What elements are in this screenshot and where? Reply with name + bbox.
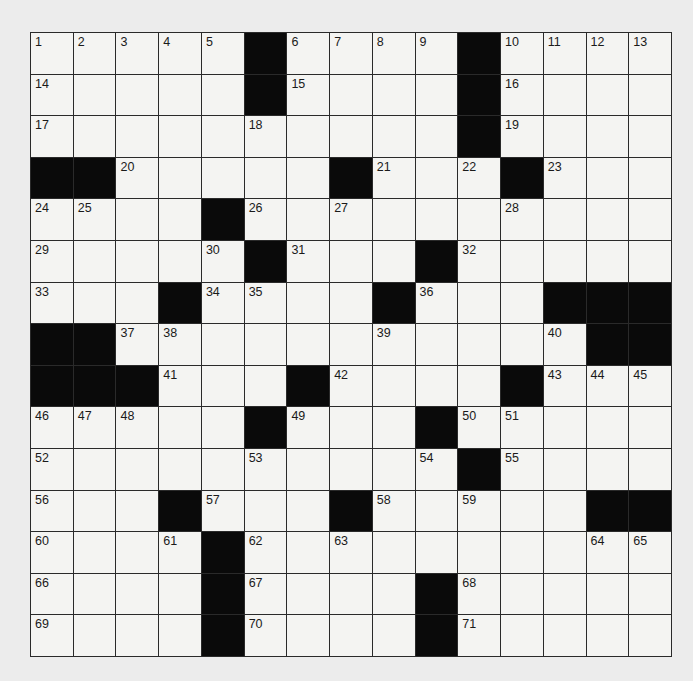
grid-cell[interactable] bbox=[116, 75, 158, 116]
grid-cell[interactable] bbox=[116, 283, 158, 324]
grid-cell[interactable] bbox=[544, 574, 586, 615]
grid-cell[interactable] bbox=[629, 407, 671, 448]
grid-cell[interactable]: 8 bbox=[373, 33, 415, 74]
grid-cell[interactable] bbox=[373, 75, 415, 116]
grid-cell[interactable]: 25 bbox=[74, 199, 116, 240]
grid-cell[interactable]: 35 bbox=[245, 283, 287, 324]
grid-cell[interactable]: 36 bbox=[416, 283, 458, 324]
grid-cell[interactable]: 71 bbox=[458, 615, 500, 656]
grid-cell[interactable] bbox=[159, 241, 201, 282]
grid-cell[interactable]: 14 bbox=[31, 75, 73, 116]
grid-cell[interactable]: 19 bbox=[501, 116, 543, 157]
grid-cell[interactable] bbox=[373, 532, 415, 573]
grid-cell[interactable]: 24 bbox=[31, 199, 73, 240]
grid-cell[interactable]: 41 bbox=[159, 366, 201, 407]
grid-cell[interactable] bbox=[245, 158, 287, 199]
grid-cell[interactable] bbox=[159, 116, 201, 157]
grid-cell[interactable]: 59 bbox=[458, 491, 500, 532]
grid-cell[interactable]: 12 bbox=[587, 33, 629, 74]
grid-cell[interactable] bbox=[330, 283, 372, 324]
grid-cell[interactable] bbox=[330, 615, 372, 656]
grid-cell[interactable] bbox=[544, 407, 586, 448]
grid-cell[interactable]: 46 bbox=[31, 407, 73, 448]
grid-cell[interactable]: 32 bbox=[458, 241, 500, 282]
grid-cell[interactable] bbox=[544, 75, 586, 116]
grid-cell[interactable] bbox=[245, 324, 287, 365]
grid-cell[interactable] bbox=[501, 491, 543, 532]
grid-cell[interactable]: 34 bbox=[202, 283, 244, 324]
grid-cell[interactable] bbox=[116, 116, 158, 157]
grid-cell[interactable] bbox=[544, 532, 586, 573]
grid-cell[interactable]: 27 bbox=[330, 199, 372, 240]
grid-cell[interactable] bbox=[202, 75, 244, 116]
grid-cell[interactable] bbox=[373, 241, 415, 282]
grid-cell[interactable] bbox=[416, 116, 458, 157]
grid-cell[interactable] bbox=[159, 407, 201, 448]
grid-cell[interactable] bbox=[245, 366, 287, 407]
grid-cell[interactable] bbox=[629, 241, 671, 282]
grid-cell[interactable] bbox=[501, 283, 543, 324]
grid-cell[interactable]: 33 bbox=[31, 283, 73, 324]
grid-cell[interactable] bbox=[416, 324, 458, 365]
grid-cell[interactable] bbox=[330, 324, 372, 365]
grid-cell[interactable]: 66 bbox=[31, 574, 73, 615]
grid-cell[interactable] bbox=[330, 116, 372, 157]
grid-cell[interactable] bbox=[587, 615, 629, 656]
grid-cell[interactable] bbox=[373, 199, 415, 240]
grid-cell[interactable] bbox=[458, 366, 500, 407]
grid-cell[interactable] bbox=[245, 491, 287, 532]
grid-cell[interactable] bbox=[74, 241, 116, 282]
grid-cell[interactable] bbox=[287, 158, 329, 199]
grid-cell[interactable]: 37 bbox=[116, 324, 158, 365]
grid-cell[interactable] bbox=[458, 199, 500, 240]
grid-cell[interactable] bbox=[159, 199, 201, 240]
grid-cell[interactable]: 29 bbox=[31, 241, 73, 282]
grid-cell[interactable]: 60 bbox=[31, 532, 73, 573]
grid-cell[interactable] bbox=[416, 158, 458, 199]
grid-cell[interactable]: 58 bbox=[373, 491, 415, 532]
grid-cell[interactable] bbox=[287, 283, 329, 324]
grid-cell[interactable] bbox=[587, 75, 629, 116]
grid-cell[interactable] bbox=[116, 449, 158, 490]
grid-cell[interactable]: 68 bbox=[458, 574, 500, 615]
grid-cell[interactable]: 61 bbox=[159, 532, 201, 573]
grid-cell[interactable]: 16 bbox=[501, 75, 543, 116]
grid-cell[interactable]: 53 bbox=[245, 449, 287, 490]
grid-cell[interactable] bbox=[544, 241, 586, 282]
grid-cell[interactable]: 52 bbox=[31, 449, 73, 490]
grid-cell[interactable]: 13 bbox=[629, 33, 671, 74]
grid-cell[interactable] bbox=[458, 532, 500, 573]
grid-cell[interactable]: 30 bbox=[202, 241, 244, 282]
grid-cell[interactable] bbox=[629, 574, 671, 615]
grid-cell[interactable] bbox=[330, 449, 372, 490]
grid-cell[interactable]: 55 bbox=[501, 449, 543, 490]
grid-cell[interactable] bbox=[458, 324, 500, 365]
grid-cell[interactable]: 51 bbox=[501, 407, 543, 448]
grid-cell[interactable] bbox=[501, 241, 543, 282]
grid-cell[interactable]: 20 bbox=[116, 158, 158, 199]
grid-cell[interactable] bbox=[373, 615, 415, 656]
grid-cell[interactable] bbox=[544, 199, 586, 240]
grid-cell[interactable]: 4 bbox=[159, 33, 201, 74]
grid-cell[interactable] bbox=[287, 116, 329, 157]
grid-cell[interactable] bbox=[202, 116, 244, 157]
grid-cell[interactable]: 43 bbox=[544, 366, 586, 407]
grid-cell[interactable] bbox=[74, 116, 116, 157]
grid-cell[interactable]: 26 bbox=[245, 199, 287, 240]
grid-cell[interactable] bbox=[74, 574, 116, 615]
grid-cell[interactable]: 47 bbox=[74, 407, 116, 448]
grid-cell[interactable] bbox=[501, 574, 543, 615]
grid-cell[interactable]: 49 bbox=[287, 407, 329, 448]
grid-cell[interactable] bbox=[287, 574, 329, 615]
grid-cell[interactable]: 10 bbox=[501, 33, 543, 74]
grid-cell[interactable] bbox=[202, 324, 244, 365]
grid-cell[interactable] bbox=[74, 532, 116, 573]
grid-cell[interactable] bbox=[416, 75, 458, 116]
grid-cell[interactable]: 57 bbox=[202, 491, 244, 532]
grid-cell[interactable] bbox=[544, 615, 586, 656]
grid-cell[interactable] bbox=[287, 449, 329, 490]
grid-cell[interactable] bbox=[74, 491, 116, 532]
grid-cell[interactable] bbox=[587, 241, 629, 282]
grid-cell[interactable] bbox=[159, 75, 201, 116]
grid-cell[interactable] bbox=[629, 75, 671, 116]
